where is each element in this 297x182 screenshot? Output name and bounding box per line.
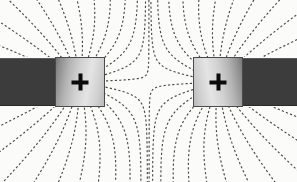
field-line	[100, 98, 130, 182]
field-line	[23, 0, 70, 58]
field-line	[238, 98, 297, 153]
field-line	[226, 0, 266, 57]
field-line	[50, 108, 78, 182]
field-line	[104, 93, 141, 182]
right-charge-plate	[193, 57, 243, 107]
field-line	[237, 0, 297, 64]
plus-icon-right	[210, 74, 227, 91]
field-line	[74, 108, 86, 182]
field-line	[173, 100, 199, 182]
field-line	[0, 0, 64, 61]
field-line	[72, 0, 83, 56]
field-line	[222, 108, 259, 182]
electric-field-figure: Electric field lines of two like point c…	[0, 0, 297, 182]
plus-icon-left	[72, 74, 89, 91]
right-conductor-bar	[242, 58, 297, 106]
field-line	[157, 0, 194, 71]
left-charge-assembly	[0, 58, 106, 106]
field-line	[0, 104, 66, 182]
field-line	[49, 0, 75, 56]
field-line	[188, 104, 204, 182]
field-line	[90, 106, 100, 182]
field-line	[21, 107, 72, 182]
field-line	[199, 0, 208, 58]
field-line	[204, 107, 211, 182]
field-line	[228, 106, 290, 182]
left-conductor-bar	[0, 58, 56, 106]
field-line	[106, 0, 149, 81]
field-line	[151, 0, 193, 77]
field-line	[0, 100, 61, 166]
field-line	[103, 0, 138, 69]
field-line	[212, 0, 220, 56]
field-line	[232, 0, 297, 60]
field-line	[88, 0, 94, 57]
field-line	[0, 9, 60, 65]
field-line	[94, 0, 110, 60]
field-line	[183, 0, 203, 61]
field-line	[216, 108, 233, 182]
left-charge-plate	[55, 57, 105, 107]
field-line	[96, 103, 116, 182]
right-charge-assembly	[192, 58, 297, 106]
